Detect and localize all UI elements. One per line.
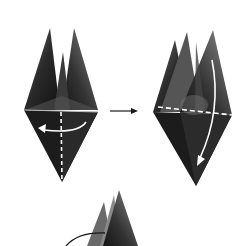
step-c-model: [66, 190, 138, 246]
step-a-left-flap: [24, 28, 60, 110]
step-a-model: [24, 28, 98, 182]
transition-arrow-icon: [110, 108, 138, 114]
step-b-model: [153, 30, 232, 186]
origami-diagram: [0, 0, 237, 246]
